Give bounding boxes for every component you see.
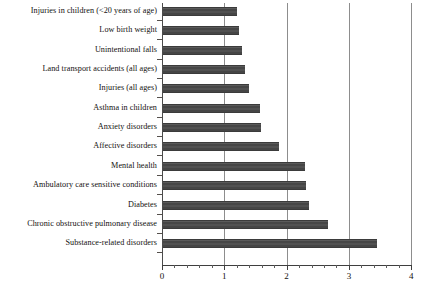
category-label: Substance-related disorders (65, 238, 157, 247)
category-label: Injuries in children (<20 years of age) (31, 6, 157, 15)
category-label: Anxiety disorders (98, 122, 157, 131)
bar (163, 123, 261, 132)
x-axis-tick-label: 3 (339, 271, 359, 281)
y-axis-tick (157, 155, 162, 156)
x-axis-minor-tick (262, 265, 263, 268)
category-label: Affective disorders (93, 141, 157, 150)
x-axis-minor-tick (174, 265, 175, 268)
x-axis-minor-tick (249, 265, 250, 268)
x-axis-minor-tick (399, 265, 400, 268)
x-axis-tick-label: 0 (152, 271, 172, 281)
category-label: Injuries (all ages) (99, 83, 157, 92)
bar (163, 239, 377, 248)
category-label: Mental health (111, 161, 157, 170)
x-axis-minor-tick (386, 265, 387, 268)
bar (163, 142, 279, 151)
category-label: Low birth weight (99, 25, 157, 34)
x-axis-minor-tick (299, 265, 300, 268)
gridline-4 (411, 3, 412, 265)
y-axis-tick (157, 175, 162, 176)
y-axis-tick (157, 97, 162, 98)
y-axis-tick (157, 59, 162, 60)
category-label: Land transport accidents (all ages) (42, 64, 157, 73)
bar (163, 84, 249, 93)
category-label: Chronic obstructive pulmonary disease (27, 219, 157, 228)
bar (163, 220, 328, 229)
x-axis-tick-label: 4 (401, 271, 421, 281)
x-axis-tick-label: 1 (214, 271, 234, 281)
x-axis-tick-label: 2 (277, 271, 297, 281)
category-label: Diabetes (128, 200, 157, 209)
x-axis-major-tick (162, 265, 163, 270)
bar (163, 162, 305, 171)
x-axis-minor-tick (312, 265, 313, 268)
bar (163, 201, 309, 210)
bar (163, 65, 245, 74)
y-axis-tick (157, 252, 162, 253)
x-axis-major-tick (349, 265, 350, 270)
bar (163, 181, 306, 190)
y-axis-tick (157, 136, 162, 137)
y-axis-tick (157, 39, 162, 40)
x-axis-major-tick (287, 265, 288, 270)
x-axis-minor-tick (274, 265, 275, 268)
x-axis-major-tick (411, 265, 412, 270)
y-axis-tick (157, 214, 162, 215)
x-axis-minor-tick (237, 265, 238, 268)
category-labels-axis: Injuries in children (<20 years of age)L… (0, 0, 160, 265)
y-axis-tick (157, 20, 162, 21)
y-axis-tick (157, 194, 162, 195)
bar (163, 104, 260, 113)
bar (163, 7, 237, 16)
bar-chart: Injuries in children (<20 years of age)L… (0, 0, 423, 291)
y-axis-tick (157, 78, 162, 79)
y-axis-tick (157, 233, 162, 234)
x-axis-minor-tick (199, 265, 200, 268)
category-label: Unintentional falls (95, 45, 157, 54)
x-axis-minor-tick (361, 265, 362, 268)
x-axis-minor-tick (324, 265, 325, 268)
x-axis-major-tick (224, 265, 225, 270)
y-axis-tick (157, 117, 162, 118)
x-axis-minor-tick (374, 265, 375, 268)
gridline-3 (349, 3, 350, 265)
bar (163, 46, 242, 55)
category-label: Asthma in children (93, 103, 157, 112)
category-label: Ambulatory care sensitive conditions (33, 180, 157, 189)
plot-area (162, 3, 412, 265)
x-axis-minor-tick (187, 265, 188, 268)
x-axis-minor-tick (212, 265, 213, 268)
x-axis-minor-tick (336, 265, 337, 268)
bar (163, 26, 239, 35)
